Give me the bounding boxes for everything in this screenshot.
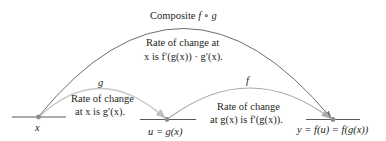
u-point-dot xyxy=(165,117,170,122)
composite-title: Composite f ∘ g xyxy=(150,10,217,22)
composite-title-expr: f ∘ g xyxy=(198,10,217,21)
x-point-label: x xyxy=(35,122,40,134)
composite-rate-line1: Rate of change at xyxy=(146,37,219,49)
g-rate-line2: at x is g′(x). xyxy=(75,106,125,118)
g-arrow-label: g xyxy=(98,77,103,89)
u-point-label: u = g(x) xyxy=(148,126,183,138)
f-arrow-label: f xyxy=(246,75,249,87)
f-rate-line2: at g(x) is f′(g(x)). xyxy=(210,114,283,126)
x-point-dot xyxy=(36,115,41,120)
composite-title-prefix: Composite xyxy=(150,10,198,21)
y-point-label: y = f(u) = f(g(x)) xyxy=(297,124,368,136)
y-point-dot xyxy=(331,117,336,122)
f-rate-line1: Rate of change xyxy=(217,101,280,113)
g-rate-line1: Rate of change xyxy=(71,93,134,105)
composite-rate-line2: x is f′(g(x)) · g′(x). xyxy=(144,51,223,63)
chain-rule-diagram: Composite f ∘ g Rate of change at x is f… xyxy=(0,0,386,141)
